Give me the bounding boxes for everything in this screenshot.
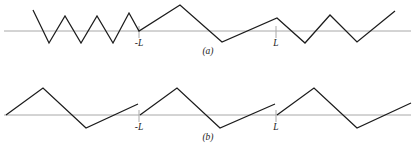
panel-b: -L L (b) [4, 88, 411, 143]
panel-b-label-minus-L: -L [135, 122, 143, 132]
panel-a-waveform [33, 5, 395, 43]
figure-container: -L L (a) -L L (b) [0, 0, 415, 152]
panel-a-label-minus-L: -L [135, 38, 143, 48]
panel-b-segment-3 [277, 88, 411, 128]
panel-b-segment-1 [6, 88, 138, 128]
panel-b-caption: (b) [202, 132, 213, 143]
panel-b-label-L: L [272, 122, 278, 132]
panel-a-label-L: L [272, 38, 278, 48]
panel-a-caption: (a) [202, 46, 213, 57]
panel-a: -L L (a) [4, 5, 411, 57]
waveform-figure: -L L (a) -L L (b) [0, 0, 415, 152]
panel-b-segment-2 [140, 88, 275, 128]
